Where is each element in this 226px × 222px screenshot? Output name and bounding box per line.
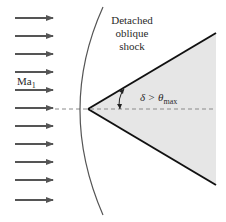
flow-arrows [15,18,53,200]
mach-symbol: Ma [17,75,32,87]
angle-label: δ > θmax [140,91,177,106]
angle-subscript: max [163,97,177,106]
shock-label-line2: oblique [101,27,163,40]
angle-text: δ > θ [140,91,163,103]
shock-label-line3: shock [101,40,163,53]
shock-label: Detached oblique shock [101,14,163,53]
shock-label-line1: Detached [101,14,163,27]
mach-subscript: 1 [32,81,36,90]
mach-label: Ma1 [17,75,36,90]
